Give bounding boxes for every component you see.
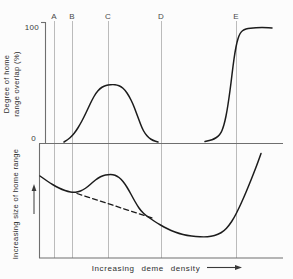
ytick-100-label: 100 <box>25 23 39 32</box>
marker-label-B: B <box>69 12 74 21</box>
top-ylabel-line1: Degree of home <box>2 55 11 114</box>
top-ylabel-line2: range overlap (%) <box>12 51 21 117</box>
increasing-up-arrow-head <box>32 184 37 191</box>
marker-label-E: E <box>233 12 238 21</box>
top-overlap-sigmoid-curve <box>205 28 272 142</box>
marker-label-D: D <box>158 12 164 21</box>
bottom-extrapolated-trend-curve <box>77 194 152 219</box>
marker-label-C: C <box>105 12 111 21</box>
figure: ABCDE100 0 Degree of home range overlap … <box>0 0 293 279</box>
top-overlap-bell-curve <box>64 85 158 142</box>
bottom-ylabel: Increasing size of home range <box>11 149 20 260</box>
bottom-home-range-size-curve <box>40 154 261 237</box>
x-axis-label: Increasing deme density <box>92 264 201 273</box>
two-panel-chart: ABCDE100 0 Degree of home range overlap … <box>0 0 293 279</box>
marker-label-A: A <box>51 12 57 21</box>
ytick-0-label: 0 <box>31 134 36 143</box>
xlabel-arrow-head <box>235 265 242 270</box>
